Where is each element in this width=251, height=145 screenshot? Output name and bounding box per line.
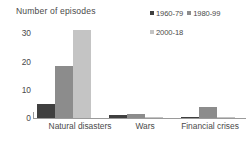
bar-1960-79[interactable] bbox=[37, 104, 55, 118]
bar-1960-79[interactable] bbox=[109, 115, 127, 118]
bar-2000-18[interactable] bbox=[217, 117, 235, 118]
y-tick-label: 0 bbox=[1, 114, 31, 122]
y-tick-label: 20 bbox=[1, 58, 31, 66]
bars bbox=[37, 30, 91, 118]
legend-row-1: 1960-79 1980-99 bbox=[150, 8, 251, 19]
bar-1980-99[interactable] bbox=[55, 66, 73, 118]
bar-chart: Number of episodes 1960-79 1980-99 2000-… bbox=[0, 0, 251, 145]
bar-2000-18[interactable] bbox=[145, 117, 163, 118]
bar-1960-79[interactable] bbox=[181, 117, 199, 118]
bar-1980-99[interactable] bbox=[199, 107, 217, 118]
bar-1980-99[interactable] bbox=[127, 114, 145, 118]
plot-area bbox=[33, 30, 245, 118]
legend-item-1980-99[interactable]: 1980-99 bbox=[187, 8, 220, 19]
y-tick-label: 30 bbox=[1, 29, 31, 37]
legend-item-1960-79[interactable]: 1960-79 bbox=[150, 8, 183, 19]
legend-swatch-icon bbox=[187, 11, 191, 15]
bars bbox=[181, 30, 235, 118]
legend-label: 1980-99 bbox=[193, 9, 220, 19]
legend-label: 1960-79 bbox=[156, 9, 183, 19]
bar-2000-18[interactable] bbox=[73, 30, 91, 118]
x-tick-label-financial-crises: Financial crises bbox=[170, 122, 250, 131]
legend-swatch-icon bbox=[150, 11, 154, 15]
y-tick-label: 10 bbox=[1, 86, 31, 94]
x-axis-line bbox=[33, 118, 246, 119]
bars bbox=[109, 30, 163, 118]
